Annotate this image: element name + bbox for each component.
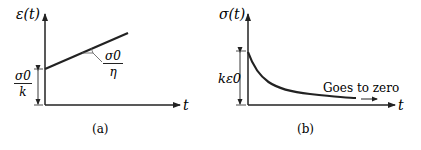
annotation-goes-to-zero: Goes to zero [323, 81, 399, 95]
x-axis-label-b: t [398, 97, 404, 113]
caption-a: (a) [92, 122, 109, 136]
y-axis-label-b: σ(t) [219, 6, 245, 22]
x-axis-label-a: t [183, 97, 189, 113]
slope-label-a: σ0 η [103, 50, 123, 78]
y-axis-label-a: ε(t) [16, 6, 40, 22]
caption-b: (b) [297, 122, 314, 136]
diagram-canvas [0, 0, 421, 150]
jump-label-b: kε0 [218, 71, 241, 86]
slope-leader [93, 53, 102, 62]
jump-label-a: σ0 k [14, 70, 32, 98]
